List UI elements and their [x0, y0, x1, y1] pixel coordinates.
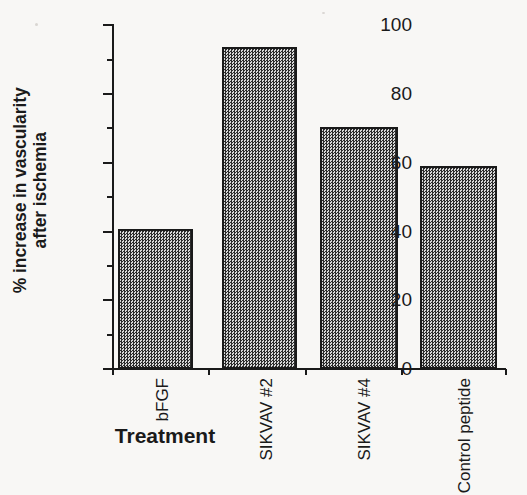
x-tick-2: [305, 369, 307, 375]
y-tick-70: [107, 127, 112, 129]
x-tick-label-sikvav-4: SIKVAV #4: [355, 378, 375, 461]
y-tick-30: [107, 265, 112, 267]
y-tick-label-0: 0: [401, 358, 412, 380]
y-tick-90: [107, 59, 112, 61]
x-tick-4: [505, 369, 507, 375]
x-tick-0: [112, 369, 114, 375]
y-axis-title-line-2: after ischemia: [30, 87, 50, 293]
x-tick-label-sikvav-2: SIKVAV #2: [257, 378, 277, 461]
y-tick-0: [103, 368, 112, 370]
bar-bfgf[interactable]: [118, 229, 193, 369]
bar-sikvav-4[interactable]: [320, 127, 398, 369]
x-axis-title: Treatment: [115, 424, 215, 448]
bar-control-peptide[interactable]: [420, 166, 497, 369]
y-tick-10: [107, 334, 112, 336]
scan-speck: [322, 12, 325, 14]
y-tick-40: [103, 231, 112, 233]
y-tick-label-60: 60: [391, 152, 412, 174]
y-tick-20: [103, 299, 112, 301]
y-tick-60: [103, 162, 112, 164]
y-tick-label-100: 100: [380, 14, 412, 36]
plot-area: [113, 24, 505, 369]
y-axis-line: [112, 24, 114, 370]
y-tick-label-20: 20: [391, 289, 412, 311]
y-tick-50: [107, 196, 112, 198]
y-axis-title-line-1: % increase in vascularity: [10, 87, 30, 293]
y-tick-label-40: 40: [391, 221, 412, 243]
x-tick-label-bfgf: bFGF: [153, 378, 173, 421]
bar-sikvav-2[interactable]: [222, 47, 297, 369]
x-tick-1: [208, 369, 210, 375]
y-tick-100: [103, 24, 112, 26]
bar-chart-figure: % increase in vascularity after ischemia: [0, 0, 527, 495]
y-tick-80: [103, 93, 112, 95]
y-tick-label-80: 80: [391, 83, 412, 105]
y-axis-title: % increase in vascularity after ischemia: [0, 0, 60, 380]
x-tick-label-control-peptide: Control peptide: [455, 378, 475, 493]
